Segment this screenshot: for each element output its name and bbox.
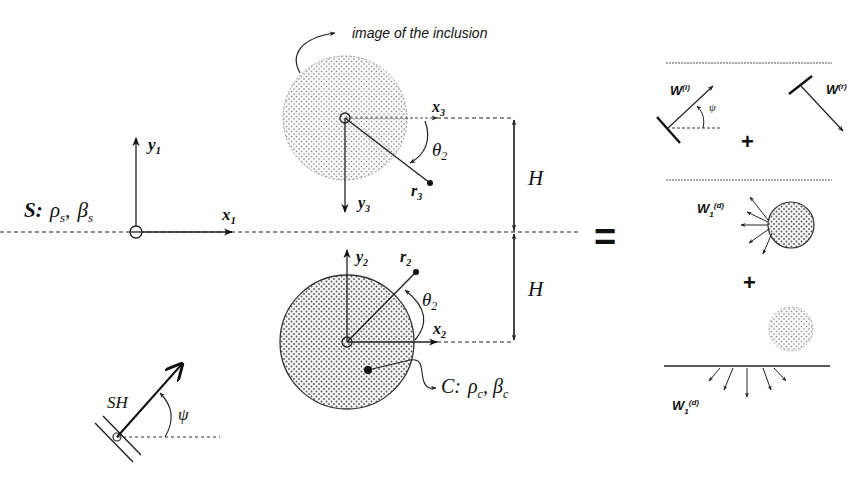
inclusion-material-label: C: ρc, βc [441,375,509,401]
plus-sign-1: + [741,129,754,154]
svg-text:x3: x3 [431,98,445,118]
svg-text:θ2: θ2 [432,139,447,163]
psi-arc [160,393,171,437]
half-space-label: S: ρs, βs [24,198,93,225]
svg-text:x1: x1 [221,205,236,226]
svg-text:r2: r2 [400,248,411,268]
diffracted-inclusion-term: W1(d) [697,197,814,254]
svg-text:W(i): W(i) [670,83,690,98]
image-annotation-label: image of the inclusion [352,25,488,41]
svg-text:ψ: ψ [709,101,716,113]
right-panel: W(i) ψ + W(r) W1(d) + [657,63,847,416]
image-inclusion: θ2 x3 y3 r3 [283,56,514,214]
material-pointer-arrow [410,360,436,388]
svg-text:r3: r3 [411,182,422,202]
depth-label-upper: H [527,166,545,190]
wave-scattering-diagram: y1 x1 S: ρs, βs image of the inclusion [0,0,867,479]
reflected-wave-term: W(r) [789,76,847,131]
equals-sign: = [594,216,616,258]
svg-text:W(r): W(r) [826,82,847,97]
depth-label-lower: H [527,277,545,301]
psi-label: ψ [178,405,189,424]
svg-text:θ2: θ2 [422,289,437,313]
depth-dimension: H H [514,120,545,340]
x1-label: x [221,205,231,224]
svg-text:W1(d): W1(d) [697,201,724,219]
plus-sign-2: + [743,270,756,295]
y1-label: y [146,135,156,154]
theta2-upper-arc [410,121,428,163]
svg-text:y1: y1 [146,135,161,156]
left-panel: y1 x1 S: ρs, βs image of the inclusion [0,25,580,462]
inclusion: θ2 y2 x2 r2 C: ρc, βc [280,248,514,409]
axes-1: y1 x1 [130,135,236,238]
svg-text:W1(d): W1(d) [672,398,699,416]
svg-text:y2: y2 [354,248,368,268]
incident-wave-term: W(i) ψ [657,83,720,143]
diffracted-surface-term: W1(d) [664,307,830,416]
svg-text:x2: x2 [432,320,446,340]
incident-sh-wave: SH ψ [95,364,220,462]
svg-text:y3: y3 [356,194,370,214]
sh-label: SH [107,393,130,412]
